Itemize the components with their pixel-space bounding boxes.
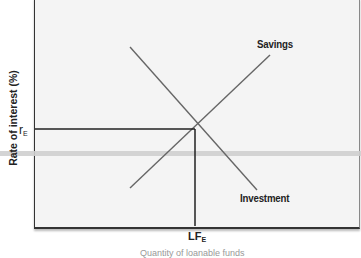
r-subscript: E (23, 130, 28, 137)
equilibrium-quantity-label: LFE (188, 230, 206, 243)
lf-text: LF (188, 230, 201, 242)
investment-label: Investment (240, 192, 289, 204)
lf-subscript: E (201, 236, 206, 243)
investment-curve (130, 47, 257, 190)
x-axis-label: Quantity of loanable funds (140, 248, 245, 258)
equilibrium-rate-label: rE (19, 123, 28, 137)
y-axis-label: Rate of interest (%) (7, 63, 19, 173)
savings-curve (130, 55, 270, 188)
savings-label: Savings (257, 38, 293, 50)
